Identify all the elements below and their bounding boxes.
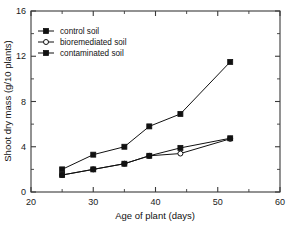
legend-marker-filled-square-icon [44, 29, 49, 34]
x-tick-label: 20 [26, 197, 36, 207]
legend-label: control soil [60, 27, 99, 36]
chart-canvas: 2030405060 0481216 control soilbioremedi… [0, 0, 291, 226]
data-point [147, 153, 152, 158]
legend-marker-open-circle-icon [44, 40, 49, 45]
data-point [147, 124, 152, 129]
x-tick-label: 30 [88, 197, 98, 207]
data-point [122, 144, 127, 149]
x-axis-title: Age of plant (days) [115, 210, 195, 221]
y-tick-label: 0 [21, 187, 26, 197]
y-tick-label: 12 [16, 51, 26, 61]
legend-marker-filled-square-icon [44, 51, 49, 56]
legend-label: contaminated soil [60, 49, 124, 58]
data-point [122, 161, 127, 166]
data-point [178, 151, 183, 156]
y-axis-title: Shoot dry mass (g/10 plants) [2, 40, 13, 161]
y-tick-label: 4 [21, 142, 26, 152]
data-point [91, 167, 96, 172]
x-tick-label: 60 [275, 197, 285, 207]
y-tick-label: 16 [16, 6, 26, 16]
data-point [228, 59, 233, 64]
data-point [60, 173, 65, 178]
data-point [91, 152, 96, 157]
x-tick-label: 40 [150, 197, 160, 207]
legend-label: bioremediated soil [60, 38, 127, 47]
y-tick-label: 8 [21, 97, 26, 107]
data-point [178, 145, 183, 150]
x-tick-label: 50 [213, 197, 223, 207]
data-point [178, 111, 183, 116]
data-point [60, 167, 65, 172]
chart-figure: 2030405060 0481216 control soilbioremedi… [0, 0, 291, 226]
data-point [228, 136, 233, 141]
